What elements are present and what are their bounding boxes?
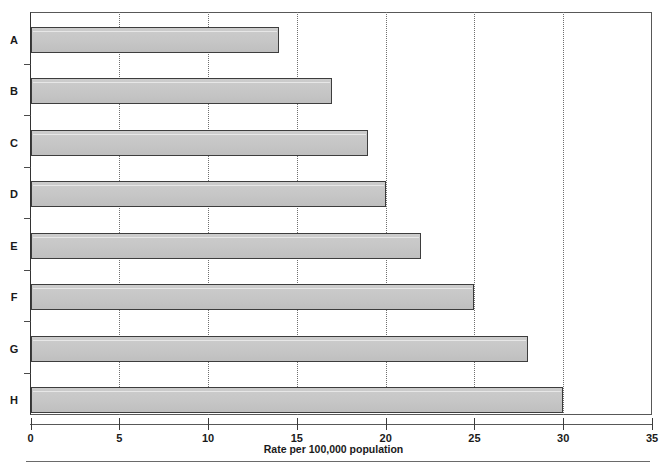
bars-group [0,0,667,470]
x-tick-15 [297,418,298,430]
bar-G[interactable] [31,336,528,362]
x-axis-title: Rate per 100,000 population [0,443,667,455]
y-tick-6 [24,321,31,322]
y-tick-7 [24,373,31,374]
bar-F[interactable] [31,284,475,310]
bar-highlight [33,237,420,238]
category-label-A: A [4,34,24,46]
x-tick-10 [208,418,209,430]
category-label-F: F [4,291,24,303]
bar-D[interactable] [31,181,386,207]
y-tick-5 [24,270,31,271]
x-tick-20 [386,418,387,430]
y-tick-4 [24,218,31,219]
bar-highlight [33,134,366,135]
bar-highlight [33,288,473,289]
category-label-G: G [4,343,24,355]
bar-B[interactable] [31,78,333,104]
y-tick-3 [24,167,31,168]
category-label-D: D [4,188,24,200]
category-label-B: B [4,85,24,97]
bar-C[interactable] [31,130,368,156]
category-label-H: H [4,394,24,406]
bar-H[interactable] [31,387,564,413]
bar-highlight [33,391,562,392]
bar-highlight [33,82,331,83]
bar-highlight [33,340,526,341]
x-tick-0 [31,418,32,430]
category-label-C: C [4,137,24,149]
bar-chart: ABCDEFGH 05101520253035 Rate per 100,000… [0,0,667,470]
x-tick-25 [474,418,475,430]
y-tick-2 [24,115,31,116]
x-axis-line [30,424,652,425]
category-label-E: E [4,240,24,252]
footer-divider [26,461,650,462]
bar-A[interactable] [31,27,280,53]
bar-highlight [33,185,384,186]
bar-highlight [33,31,278,32]
bar-E[interactable] [31,233,422,259]
x-tick-35 [652,418,653,430]
x-tick-5 [119,418,120,430]
y-tick-1 [24,64,31,65]
x-tick-30 [563,418,564,430]
